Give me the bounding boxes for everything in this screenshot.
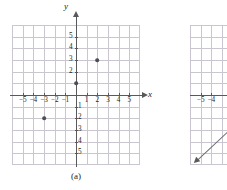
y-tick-label: 3 [78, 126, 82, 133]
data-point [74, 82, 78, 86]
y-tick-label: 5 [69, 33, 73, 40]
x-tick-label: 3 [106, 97, 110, 104]
x-tick-label: −3 [40, 97, 48, 104]
x-tick-label: −4 [30, 97, 38, 104]
y-tick-label: 4 [78, 138, 82, 145]
y-tick-label: 4 [69, 45, 73, 52]
x-tick-label: 5 [128, 97, 132, 104]
coordinate-plane-a: −5 −4 −3 −2 −1 1 2 3 4 5 5 4 3 2 [12, 25, 140, 165]
x-axis-label: x [148, 90, 152, 99]
x-tick-label: −5 [19, 97, 27, 104]
y-tick [75, 72, 78, 73]
y-tick-label: 3 [69, 56, 73, 63]
x-tick-label-b: −4 [208, 97, 216, 104]
y-tick-label: 2 [78, 115, 82, 122]
data-point [96, 58, 100, 62]
x-tick-label: 2 [96, 97, 100, 104]
y-tick [75, 60, 78, 61]
y-tick-label: 5 [78, 150, 82, 157]
coordinate-plane-b: −5 −4 [190, 25, 227, 165]
y-tick [75, 37, 78, 38]
y-tick-label: 1 [78, 103, 82, 110]
x-tick-label: −2 [51, 97, 59, 104]
panel-b: −5 −4 [190, 25, 227, 165]
panel-caption-a: (a) [0, 172, 152, 181]
y-tick [75, 48, 78, 49]
panel-a: −5 −4 −3 −2 −1 1 2 3 4 5 5 4 3 2 [0, 0, 152, 190]
figure-root: −5 −4 −3 −2 −1 1 2 3 4 5 5 4 3 2 [0, 0, 227, 190]
y-axis-label: y [64, 2, 68, 11]
y-tick-label: 2 [69, 68, 73, 75]
y-axis-line [76, 16, 77, 167]
data-point [42, 117, 46, 121]
x-tick-label: 4 [117, 97, 121, 104]
x-tick-label-b: −5 [197, 97, 205, 104]
y-axis-arrow-icon [73, 11, 79, 17]
x-tick-label: −1 [62, 97, 70, 104]
x-tick-label: 1 [85, 97, 89, 104]
